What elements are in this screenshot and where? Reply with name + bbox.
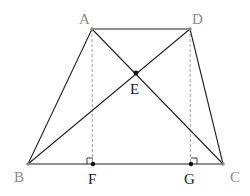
point-F: [91, 162, 95, 166]
diagram-svg: [0, 0, 250, 196]
side-DC: [190, 29, 223, 164]
altitude-DG: [190, 29, 191, 164]
label-G: G: [184, 172, 195, 187]
vertex-D: [188, 27, 192, 31]
label-F: F: [88, 172, 96, 187]
vertex-A: [90, 27, 94, 31]
label-A: A: [79, 12, 90, 27]
label-D: D: [192, 12, 203, 27]
label-C: C: [230, 170, 240, 185]
point-G: [189, 162, 193, 166]
altitude-AF: [92, 29, 93, 164]
label-B: B: [14, 170, 24, 185]
diagonal-AC: [92, 29, 223, 164]
vertex-C: [221, 162, 225, 166]
trapezoid-diagram: A D E B F G C: [0, 0, 250, 196]
side-AB: [28, 29, 92, 164]
point-E: [134, 71, 139, 76]
label-E: E: [130, 82, 139, 97]
vertex-B: [26, 162, 30, 166]
diagonal-BD: [28, 29, 190, 164]
